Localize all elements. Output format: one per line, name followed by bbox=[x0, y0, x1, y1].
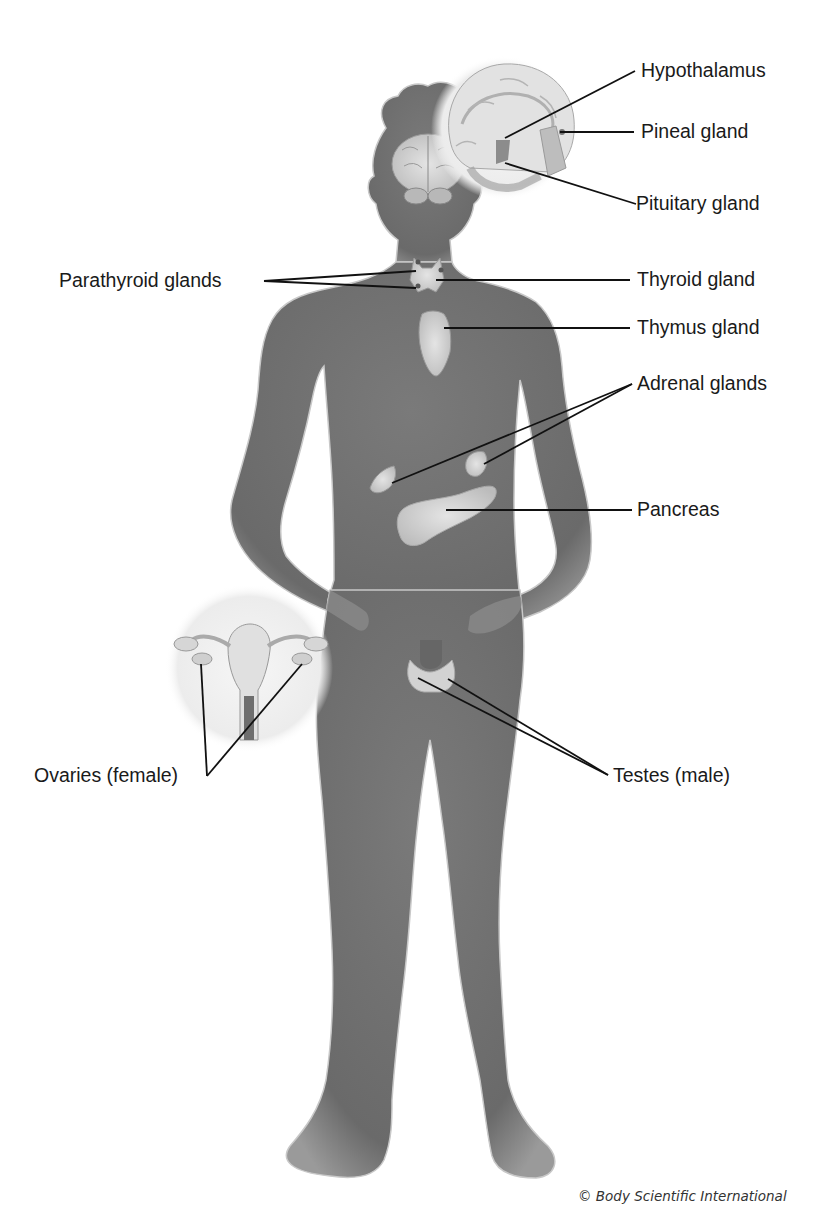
copyright-credit: © Body Scientific International bbox=[578, 1188, 787, 1204]
label-pineal-gland: Pineal gland bbox=[641, 122, 748, 142]
label-parathyroid-glands: Parathyroid glands bbox=[59, 271, 222, 291]
label-testes: Testes (male) bbox=[613, 766, 730, 786]
label-adrenal-glands: Adrenal glands bbox=[637, 374, 767, 394]
label-thyroid-gland: Thyroid gland bbox=[637, 270, 755, 290]
label-hypothalamus: Hypothalamus bbox=[641, 61, 766, 81]
label-thymus-gland: Thymus gland bbox=[637, 318, 759, 338]
endocrine-diagram: Hypothalamus Pineal gland Pituitary glan… bbox=[0, 0, 828, 1222]
body-illustration bbox=[0, 0, 828, 1222]
label-pituitary-gland: Pituitary gland bbox=[636, 194, 760, 214]
label-pancreas: Pancreas bbox=[637, 500, 719, 520]
label-ovaries: Ovaries (female) bbox=[34, 766, 178, 786]
